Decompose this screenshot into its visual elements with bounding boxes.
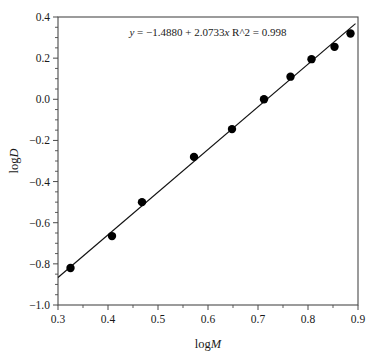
data-point-series	[66, 29, 354, 272]
x-axis-ticks	[58, 305, 358, 310]
x-axis-title-prefix: log	[195, 337, 212, 351]
y-tick-label: 0.0	[36, 93, 51, 105]
y-axis-title-variable: D	[7, 148, 21, 158]
x-tick-label: 0.9	[351, 313, 366, 325]
y-tick-label: 0.4	[36, 11, 51, 23]
y-axis-title: logD	[7, 148, 21, 173]
data-point	[108, 232, 116, 240]
data-point	[190, 153, 198, 161]
y-tick-label: −0.2	[29, 134, 50, 146]
y-tick-label: −0.4	[29, 176, 50, 188]
data-point	[138, 198, 146, 206]
data-point	[228, 125, 236, 133]
scatter-plot-canvas: 0.30.40.50.60.70.80.9 0.40.20.0−0.2−0.4−…	[0, 0, 371, 362]
data-point	[307, 55, 315, 63]
x-axis-tick-labels: 0.30.40.50.60.70.80.9	[51, 313, 366, 325]
svg-text:logD: logD	[7, 148, 21, 173]
data-point	[66, 264, 74, 272]
x-tick-label: 0.6	[201, 313, 216, 325]
x-tick-label: 0.3	[51, 313, 66, 325]
regression-equation-annotation: y = −1.4880 + 2.0733x R^2 = 0.998	[128, 26, 287, 38]
y-axis-tick-labels: 0.40.20.0−0.2−0.4−0.6−0.8−1.0	[29, 11, 50, 311]
y-axis-ticks	[53, 17, 58, 305]
y-tick-label: −0.8	[29, 258, 50, 270]
x-tick-label: 0.4	[101, 313, 116, 325]
chart-figure: 0.30.40.50.60.70.80.9 0.40.20.0−0.2−0.4−…	[0, 0, 371, 362]
data-point	[260, 95, 268, 103]
y-axis-title-prefix: log	[7, 157, 21, 174]
x-tick-label: 0.7	[251, 313, 266, 325]
y-tick-label: −1.0	[29, 299, 50, 311]
y-tick-label: −0.6	[29, 217, 50, 229]
x-axis-title: logM	[195, 337, 222, 351]
x-tick-label: 0.5	[151, 313, 166, 325]
data-point	[286, 72, 294, 80]
y-tick-label: 0.2	[36, 52, 51, 64]
x-tick-label: 0.8	[301, 313, 316, 325]
data-point	[346, 29, 354, 37]
data-point	[330, 43, 338, 51]
x-axis-title-variable: M	[210, 337, 222, 351]
